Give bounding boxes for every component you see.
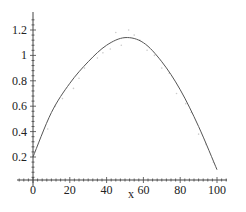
scatter-point bbox=[115, 32, 117, 34]
x-tick-label: 60 bbox=[137, 183, 149, 197]
x-tick-label: 40 bbox=[101, 183, 113, 197]
scatter-point bbox=[128, 29, 130, 31]
scatter-point bbox=[102, 52, 104, 54]
scatter-point bbox=[73, 88, 75, 90]
y-tick-label: 1.2 bbox=[12, 23, 27, 37]
scatter-point bbox=[84, 67, 86, 69]
scatter-point bbox=[62, 98, 64, 100]
scatter-point bbox=[78, 77, 80, 79]
scatter-point bbox=[185, 103, 187, 105]
scatter-point bbox=[198, 133, 200, 135]
x-axis-title: x bbox=[128, 187, 134, 201]
scatter-point bbox=[146, 50, 148, 52]
scatter-point bbox=[109, 48, 111, 50]
scatter-point bbox=[133, 34, 135, 36]
scatter-point bbox=[47, 128, 49, 130]
y-tick-label: 0.8 bbox=[12, 74, 27, 88]
fitted-curve-line bbox=[33, 38, 217, 170]
x-tick-label: 0 bbox=[30, 183, 36, 197]
scatter-point bbox=[176, 93, 178, 95]
chart: 020406080100 0.20.40.60.811.2 x bbox=[0, 0, 246, 212]
y-tick-label: 0.4 bbox=[12, 125, 27, 139]
scatter-point bbox=[97, 57, 99, 59]
scatter-points bbox=[47, 29, 214, 163]
x-tick-label: 100 bbox=[208, 183, 226, 197]
x-tick-label: 20 bbox=[64, 183, 76, 197]
y-tick-label: 1 bbox=[21, 48, 27, 62]
scatter-point bbox=[161, 67, 163, 69]
scatter-point bbox=[121, 44, 123, 46]
scatter-point bbox=[154, 55, 156, 57]
x-tick-label: 80 bbox=[174, 183, 186, 197]
y-tick-label: 0.6 bbox=[12, 99, 27, 113]
y-tick-label: 0.2 bbox=[12, 150, 27, 164]
y-tick-labels: 0.20.40.60.811.2 bbox=[12, 23, 27, 164]
